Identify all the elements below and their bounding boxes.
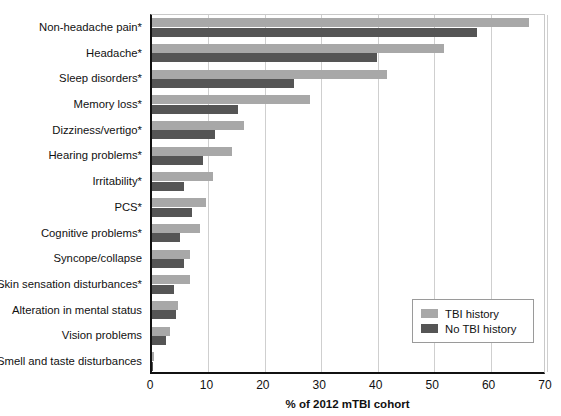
category-label: Vision problems bbox=[62, 329, 142, 341]
x-tick-label: 70 bbox=[538, 378, 551, 392]
bar-tbi-history bbox=[152, 121, 244, 130]
bar-group bbox=[152, 92, 544, 118]
legend-swatch-icon bbox=[421, 309, 438, 318]
category-label: Sleep disorders* bbox=[59, 72, 142, 84]
bar-tbi-history bbox=[152, 44, 444, 53]
bar-group bbox=[152, 272, 544, 298]
category-label: Alteration in mental status bbox=[12, 304, 142, 316]
bar-tbi-history bbox=[152, 18, 529, 27]
x-tick-label: 10 bbox=[200, 378, 213, 392]
bar-no-tbi-history bbox=[152, 28, 477, 37]
category-label: Dizziness/vertigo* bbox=[52, 124, 142, 136]
bar-tbi-history bbox=[152, 224, 200, 233]
legend-item: No TBI history bbox=[421, 321, 525, 336]
bar-group bbox=[152, 41, 544, 67]
bar-no-tbi-history bbox=[152, 53, 377, 62]
bar-no-tbi-history bbox=[152, 233, 180, 242]
bar-group bbox=[152, 246, 544, 272]
bar-group bbox=[152, 195, 544, 221]
bar-no-tbi-history bbox=[152, 156, 203, 165]
category-label: Skin sensation disturbances* bbox=[0, 278, 142, 290]
category-label: Hearing problems* bbox=[48, 149, 142, 161]
x-axis-title: % of 2012 mTBI cohort bbox=[150, 398, 545, 410]
x-tick-label: 40 bbox=[369, 378, 382, 392]
category-label: Memory loss* bbox=[74, 98, 142, 110]
x-tick-label: 20 bbox=[256, 378, 269, 392]
chart-legend: TBI historyNo TBI history bbox=[412, 299, 534, 343]
legend-swatch-icon bbox=[421, 324, 438, 333]
bar-no-tbi-history bbox=[152, 362, 153, 371]
bar-group bbox=[152, 169, 544, 195]
x-tick-label: 60 bbox=[482, 378, 495, 392]
legend-label: No TBI history bbox=[445, 323, 516, 335]
bar-no-tbi-history bbox=[152, 79, 294, 88]
x-tick-label: 30 bbox=[313, 378, 326, 392]
bar-no-tbi-history bbox=[152, 208, 192, 217]
bar-tbi-history bbox=[152, 198, 206, 207]
bar-tbi-history bbox=[152, 95, 310, 104]
bar-no-tbi-history bbox=[152, 182, 184, 191]
bar-group bbox=[152, 66, 544, 92]
gridline-70 bbox=[547, 15, 548, 372]
bar-no-tbi-history bbox=[152, 259, 184, 268]
legend-label: TBI history bbox=[445, 308, 499, 320]
x-tick-label: 0 bbox=[147, 378, 154, 392]
bar-no-tbi-history bbox=[152, 336, 166, 345]
category-label: PCS* bbox=[114, 201, 142, 213]
bar-group bbox=[152, 144, 544, 170]
bar-no-tbi-history bbox=[152, 310, 176, 319]
x-axis-tick-labels: 010203040506070 bbox=[0, 378, 561, 396]
bar-group bbox=[152, 15, 544, 41]
bar-tbi-history bbox=[152, 147, 232, 156]
category-label: Cognitive problems* bbox=[41, 227, 142, 239]
bar-tbi-history bbox=[152, 301, 178, 310]
bar-tbi-history bbox=[152, 275, 190, 284]
bar-tbi-history bbox=[152, 70, 387, 79]
bar-no-tbi-history bbox=[152, 130, 215, 139]
bar-tbi-history bbox=[152, 172, 213, 181]
category-label: Headache* bbox=[86, 47, 142, 59]
bar-no-tbi-history bbox=[152, 105, 238, 114]
bar-group bbox=[152, 118, 544, 144]
bar-tbi-history bbox=[152, 352, 154, 361]
bar-tbi-history bbox=[152, 250, 190, 259]
bar-no-tbi-history bbox=[152, 285, 174, 294]
bar-tbi-history bbox=[152, 327, 170, 336]
category-axis-labels: Non-headache pain*Headache*Sleep disorde… bbox=[0, 14, 146, 374]
category-label: Syncope/collapse bbox=[53, 252, 142, 264]
category-label: Smell and taste disturbances bbox=[0, 355, 142, 367]
bar-group bbox=[152, 221, 544, 247]
x-tick-label: 50 bbox=[425, 378, 438, 392]
bar-group bbox=[152, 349, 544, 375]
legend-item: TBI history bbox=[421, 306, 525, 321]
category-label: Non-headache pain* bbox=[39, 21, 142, 33]
grouped-bar-chart: Non-headache pain*Headache*Sleep disorde… bbox=[0, 0, 561, 416]
category-label: Irritability* bbox=[92, 175, 142, 187]
